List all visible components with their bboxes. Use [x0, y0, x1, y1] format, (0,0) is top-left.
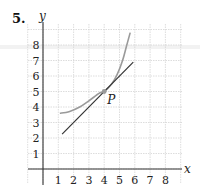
x-tick-label: 6 [131, 174, 138, 187]
x-tick-label: 3 [85, 174, 92, 187]
point-p-marker [102, 89, 107, 94]
x-tick-label: 8 [162, 174, 169, 187]
y-tick-label: 4 [33, 101, 40, 114]
y-tick-label: 2 [33, 132, 40, 145]
y-tick-label: 1 [33, 148, 40, 161]
y-tick-label: 6 [33, 70, 40, 83]
x-tick-label: 1 [55, 174, 62, 187]
graph: 1234567812345678 P x y [0, 0, 200, 190]
y-tick-label: 3 [33, 117, 40, 130]
y-tick-label: 7 [33, 55, 40, 68]
y-tick-label: 8 [33, 39, 40, 52]
tick-labels: 1234567812345678 [33, 39, 169, 187]
y-axis-label: y [38, 9, 46, 23]
y-tick-label: 5 [33, 86, 40, 99]
tangent-line [62, 62, 133, 134]
x-tick-label: 4 [101, 174, 108, 187]
x-tick-label: 2 [70, 174, 77, 187]
x-axis-label: x [184, 162, 191, 176]
grid [28, 24, 182, 183]
x-tick-label: 5 [116, 174, 123, 187]
point-p-label: P [106, 93, 116, 107]
axes [28, 22, 182, 185]
x-tick-label: 7 [147, 174, 154, 187]
